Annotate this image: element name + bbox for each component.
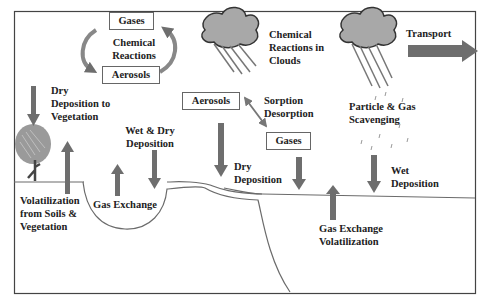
- sorption-desorption-arrow: [245, 98, 266, 126]
- ground-surface: [14, 182, 475, 292]
- label-line: Chemical: [112, 36, 156, 49]
- cloud-icon: [340, 7, 396, 88]
- volatilization-arrow: [61, 141, 74, 194]
- label-line: Deposition to: [51, 97, 110, 110]
- label-line: Dry: [234, 160, 282, 173]
- label-line: Scavenging: [349, 113, 415, 126]
- aerosols-box-mid: Aerosols: [182, 92, 240, 110]
- label-line: Vegetation: [20, 220, 80, 233]
- dry-deposition-vegetation-arrow: [27, 86, 40, 126]
- wet-deposition-arrow: [367, 155, 381, 193]
- label-line: Desorption: [264, 107, 314, 120]
- label-line: Chemical: [269, 28, 324, 41]
- label-line: Gas Exchange: [319, 222, 383, 235]
- chemical-reactions-clouds-label: Chemical Reactions in Clouds: [269, 28, 324, 67]
- aerosol-dry-deposition-arrow: [214, 123, 228, 177]
- label-line: Sorption: [264, 94, 314, 107]
- label-line: Volatilization: [20, 194, 80, 207]
- label-line: Deposition: [391, 177, 439, 190]
- dry-deposition-label: Dry Deposition: [234, 160, 282, 186]
- wet-dry-deposition-label: Wet & Dry Deposition: [122, 124, 178, 150]
- reaction-arrow-right: [160, 30, 175, 72]
- gas-dry-deposition-arrow: [292, 157, 306, 190]
- label-line: Vegetation: [51, 110, 110, 123]
- gas-exchange-lake-label: Gas Exchange: [93, 198, 157, 211]
- particle-gas-scavenging-label: Particle & Gas Scavenging: [349, 100, 415, 126]
- label-line: from Soils &: [20, 207, 80, 220]
- transport-arrow: [408, 40, 478, 62]
- gas-exchange-volatilization-arrow: [326, 185, 340, 220]
- label-line: Volatilization: [319, 235, 383, 248]
- label-line: Deposition: [234, 173, 282, 186]
- gases-box-top: Gases: [109, 12, 154, 30]
- label-line: Wet: [391, 164, 439, 177]
- label-line: Deposition: [122, 137, 178, 150]
- label-line: Clouds: [269, 54, 324, 67]
- wet-dry-deposition-arrow: [148, 150, 161, 189]
- label-line: Reactions in: [269, 41, 324, 54]
- gas-exchange-lake-arrow: [111, 164, 124, 196]
- aerosols-box-top: Aerosols: [102, 66, 160, 84]
- wet-deposition-label: Wet Deposition: [391, 164, 439, 190]
- transport-label: Transport: [406, 27, 451, 40]
- label-line: Wet & Dry: [122, 124, 178, 137]
- tree-icon: [15, 124, 51, 181]
- volatilization-soils-label: Volatilization from Soils & Vegetation: [20, 194, 80, 233]
- chemical-reactions-label: Chemical Reactions: [112, 36, 156, 62]
- sorption-desorption-label: Sorption Desorption: [264, 94, 314, 120]
- diagram-canvas: [0, 0, 484, 303]
- gases-box-mid: Gases: [266, 132, 311, 150]
- label-line: Particle & Gas: [349, 100, 415, 113]
- cloud-icon: [202, 7, 258, 74]
- label-line: Dry: [51, 84, 110, 97]
- dry-deposition-vegetation-label: Dry Deposition to Vegetation: [51, 84, 110, 123]
- label-line: Reactions: [112, 49, 156, 62]
- gas-exchange-volatilization-label: Gas Exchange Volatilization: [319, 222, 383, 248]
- reaction-arrow-left: [83, 30, 96, 70]
